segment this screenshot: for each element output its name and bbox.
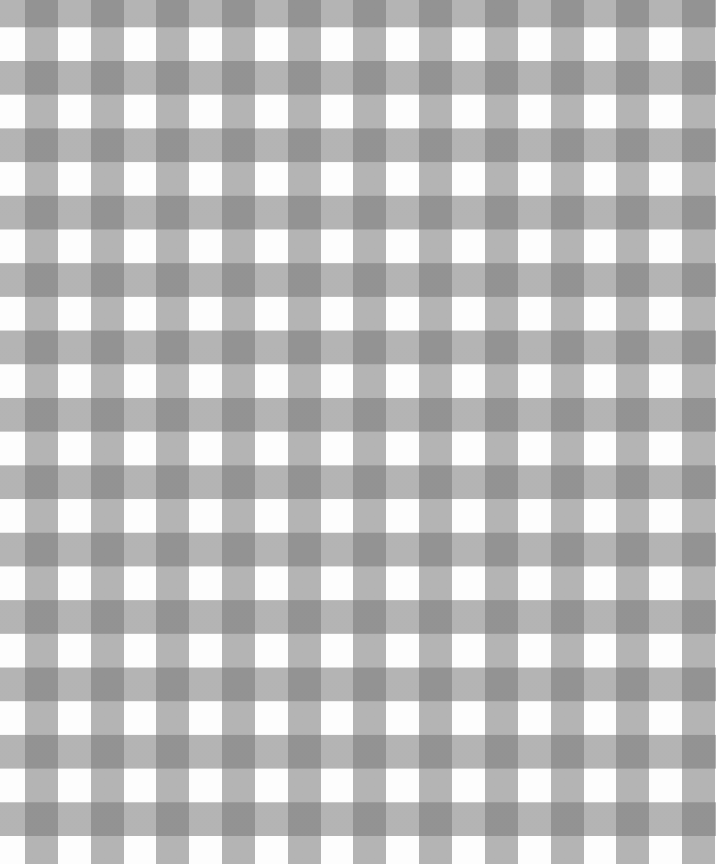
gingham-pattern: gingham check [0, 0, 716, 864]
horizontal-stripes [0, 0, 716, 864]
